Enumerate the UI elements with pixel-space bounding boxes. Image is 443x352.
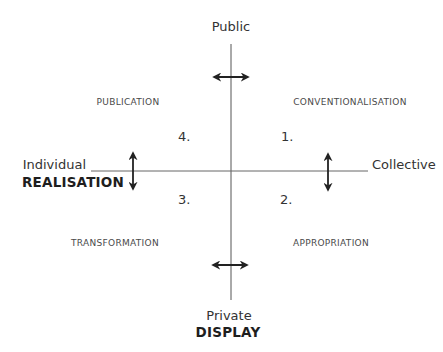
axis-label-collective: Collective [372,158,436,171]
axis-label-public: Public [212,20,250,33]
axis-title-display: DISPLAY [196,326,261,340]
quadrant-label-conventionalisation: CONVENTIONALISATION [293,98,406,107]
quadrant-number-1: 1. [281,130,293,143]
axis-label-private: Private [206,309,251,322]
quadrant-number-4: 4. [178,130,190,143]
quadrant-number-3: 3. [178,193,190,206]
quadrant-number-2: 2. [280,193,292,206]
quadrant-label-transformation: TRANSFORMATION [71,239,159,248]
quadrant-label-publication: PUBLICATION [97,98,160,107]
axis-label-individual: Individual [23,158,86,171]
quadrant-label-appropriation: APPROPRIATION [293,239,369,248]
axis-title-realisation: REALISATION [22,176,124,190]
